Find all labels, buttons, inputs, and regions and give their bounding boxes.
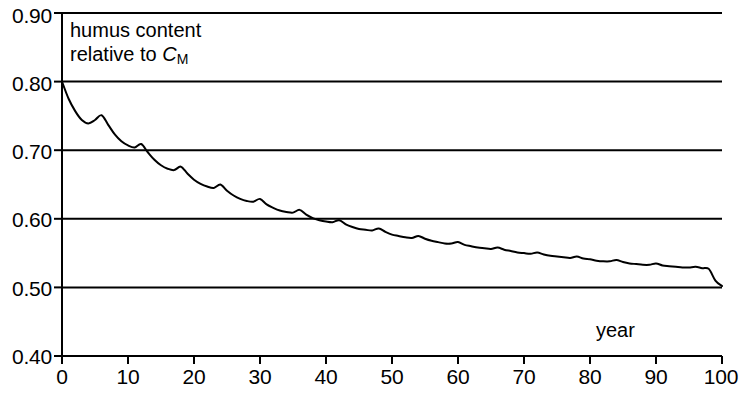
y-tick-label-5: 0.40 — [0, 346, 52, 367]
x-tick-label-50: 50 — [368, 366, 416, 387]
x-tick-label-100: 100 — [696, 366, 741, 387]
x-tick-label-30: 30 — [236, 366, 284, 387]
y-tick-label-4: 0.50 — [0, 278, 52, 299]
y-axis-annotation-line2: relative to CM — [70, 42, 201, 71]
y-tick-label-0: 0.90 — [0, 5, 52, 26]
x-tick-label-0: 0 — [38, 366, 86, 387]
y-tick-label-1: 0.80 — [0, 73, 52, 94]
y-tick-label-3: 0.60 — [0, 209, 52, 230]
data-series-line — [62, 82, 722, 286]
x-tick-label-40: 40 — [302, 366, 350, 387]
x-tick-marks — [62, 356, 722, 364]
chart-container: 0.90 0.80 0.70 0.60 0.50 0.40 0 10 20 30… — [0, 0, 741, 394]
x-tick-label-10: 10 — [104, 366, 152, 387]
y-axis-annotation-subscript: M — [177, 51, 189, 67]
x-tick-label-90: 90 — [632, 366, 680, 387]
y-axis-annotation-line1: humus content — [70, 18, 201, 42]
x-tick-label-20: 20 — [170, 366, 218, 387]
y-axis-annotation-prefix: relative to — [70, 43, 162, 65]
y-tick-marks — [54, 13, 62, 356]
x-tick-label-70: 70 — [500, 366, 548, 387]
y-axis-annotation: humus content relative to CM — [70, 18, 201, 71]
x-tick-label-80: 80 — [566, 366, 614, 387]
x-tick-label-60: 60 — [434, 366, 482, 387]
x-axis-caption: year — [596, 318, 635, 342]
y-axis-annotation-symbol: C — [162, 43, 176, 65]
y-tick-label-2: 0.70 — [0, 141, 52, 162]
